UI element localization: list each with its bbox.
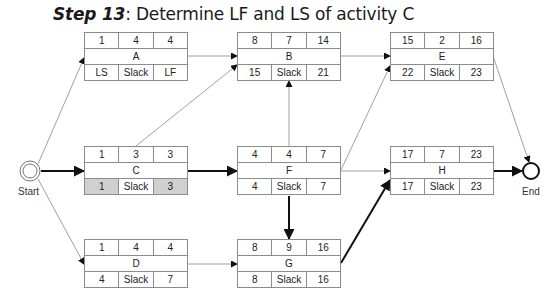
activity-name: B [238, 49, 340, 64]
activity-node-d[interactable]: 144 D 4Slack7 [84, 239, 188, 288]
activity-name: D [85, 256, 187, 271]
activity-node-a[interactable]: 144 A LSSlackLF [84, 32, 188, 81]
activity-name: E [391, 49, 493, 64]
edge-start-d [38, 179, 84, 264]
slack: Slack [119, 272, 153, 287]
early-start: 17 [391, 147, 425, 162]
edge-e-end [493, 56, 529, 162]
duration: 7 [425, 147, 459, 162]
late-start: 4 [238, 179, 272, 194]
duration: 9 [272, 240, 306, 255]
early-finish: 3 [154, 147, 187, 162]
late-start: 17 [391, 179, 425, 194]
late-start: 8 [238, 272, 272, 287]
edge-start-a [38, 58, 84, 164]
early-start: 1 [85, 147, 119, 162]
late-start: 15 [238, 65, 272, 80]
late-finish: 16 [307, 272, 340, 287]
early-finish: 4 [154, 240, 187, 255]
duration: 4 [272, 147, 306, 162]
duration: 4 [119, 33, 153, 48]
late-finish: 7 [307, 179, 340, 194]
activity-node-g[interactable]: 8916 G 8Slack16 [237, 239, 341, 288]
duration: 4 [119, 240, 153, 255]
duration: 7 [272, 33, 306, 48]
early-finish: 16 [460, 33, 493, 48]
slack: Slack [119, 65, 153, 80]
late-finish-highlighted: 3 [154, 179, 187, 194]
early-finish: 7 [307, 147, 340, 162]
activity-node-f[interactable]: 447 F 4Slack7 [237, 146, 341, 195]
edge-g-h [341, 180, 390, 263]
edge-f-e [341, 66, 390, 170]
early-start: 1 [85, 240, 119, 255]
late-finish: LF [154, 65, 187, 80]
late-start: LS [85, 65, 119, 80]
slack: Slack [425, 65, 459, 80]
late-finish: 21 [307, 65, 340, 80]
end-node-icon [523, 163, 539, 179]
slack: Slack [272, 65, 306, 80]
early-finish: 16 [307, 240, 340, 255]
activity-node-c[interactable]: 133 C 1Slack3 [84, 146, 188, 195]
activity-name: H [391, 163, 493, 178]
late-finish: 23 [460, 65, 493, 80]
early-start: 8 [238, 33, 272, 48]
late-start-highlighted: 1 [85, 179, 119, 194]
slack: Slack [425, 179, 459, 194]
activity-name: G [238, 256, 340, 271]
early-finish: 14 [307, 33, 340, 48]
early-finish: 23 [460, 147, 493, 162]
late-start: 4 [85, 272, 119, 287]
late-start: 22 [391, 65, 425, 80]
activity-node-h[interactable]: 17723 H 17Slack23 [390, 146, 494, 195]
slack: Slack [272, 272, 306, 287]
activity-node-b[interactable]: 8714 B 15Slack21 [237, 32, 341, 81]
early-finish: 4 [154, 33, 187, 48]
end-label: End [522, 186, 540, 197]
duration: 3 [119, 147, 153, 162]
slack: Slack [272, 179, 306, 194]
late-finish: 23 [460, 179, 493, 194]
start-label: Start [18, 186, 39, 197]
early-start: 4 [238, 147, 272, 162]
duration: 2 [425, 33, 459, 48]
early-start: 15 [391, 33, 425, 48]
early-start: 8 [238, 240, 272, 255]
slack: Slack [119, 179, 153, 194]
activity-node-e[interactable]: 15216 E 22Slack23 [390, 32, 494, 81]
early-start: 1 [85, 33, 119, 48]
activity-name: F [238, 163, 340, 178]
activity-name: C [85, 163, 187, 178]
late-finish: 7 [154, 272, 187, 287]
activity-name: A [85, 49, 187, 64]
